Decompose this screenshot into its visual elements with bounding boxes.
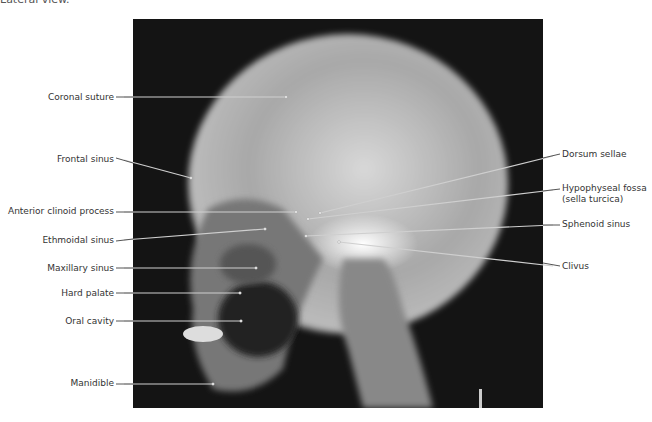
label-anterior-clinoid-process: Anterior clinoid process [8, 206, 114, 217]
label-clivus: Clivus [562, 261, 589, 272]
label-coronal-suture: Coronal suture [48, 92, 114, 103]
label-oral-cavity: Oral cavity [65, 316, 114, 327]
label-sphenoid-sinus: Sphenoid sinus [562, 219, 630, 230]
label-dorsum-sellae: Dorsum sellae [562, 149, 626, 160]
label-ethmoidal-sinus: Ethmoidal sinus [42, 235, 114, 246]
label-sella-turcica: (sella turcica) [562, 194, 623, 205]
label-frontal-sinus: Frontal sinus [57, 154, 114, 165]
label-hypophyseal-fossa: Hypophyseal fossa [562, 183, 647, 194]
label-hard-palate: Hard palate [61, 288, 114, 299]
label-manidible: Manidible [71, 378, 114, 389]
label-maxillary-sinus: Maxillary sinus [47, 263, 114, 274]
